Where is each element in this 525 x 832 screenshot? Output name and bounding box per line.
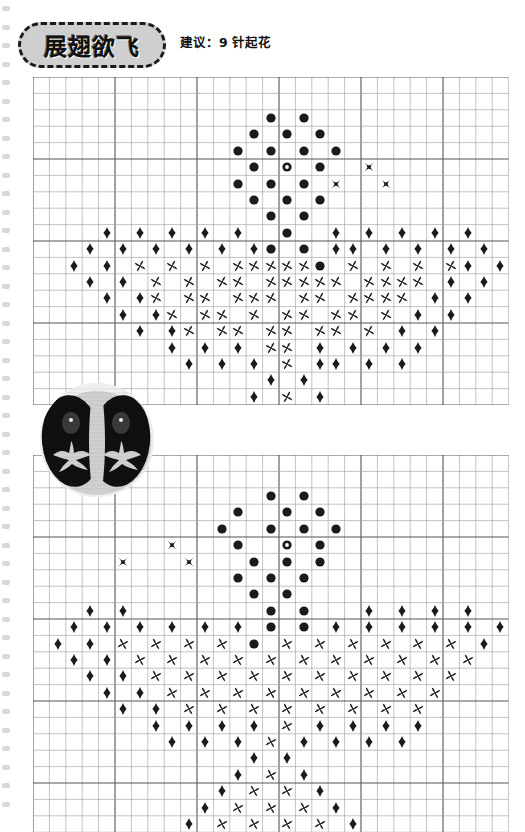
diamond-symbol	[443, 307, 459, 323]
diamond-symbol	[148, 717, 164, 733]
pinwheel-symbol	[131, 652, 147, 668]
filled-circle-symbol	[295, 143, 311, 159]
pinwheel-symbol	[148, 274, 164, 290]
diamond-symbol	[99, 257, 115, 273]
filled-circle-symbol	[279, 586, 295, 602]
filled-circle-symbol	[312, 553, 328, 569]
pinwheel-symbol	[279, 257, 295, 273]
pinwheel-symbol	[263, 274, 279, 290]
pinwheel-symbol	[164, 257, 180, 273]
page-title: 展翅欲飞	[44, 28, 140, 62]
diamond-symbol	[312, 783, 328, 799]
diamond-symbol	[345, 339, 361, 355]
pinwheel-symbol	[263, 685, 279, 701]
diamond-symbol	[459, 619, 475, 635]
diamond-symbol	[197, 619, 213, 635]
filled-circle-symbol	[295, 175, 311, 191]
diamond-symbol	[115, 701, 131, 717]
binding-hole	[2, 247, 10, 252]
diamond-symbol	[213, 356, 229, 372]
filled-circle-symbol	[279, 553, 295, 569]
pinwheel-symbol	[328, 652, 344, 668]
pinwheel-symbol	[410, 257, 426, 273]
diamond-symbol	[230, 225, 246, 241]
pinwheel-symbol	[263, 767, 279, 783]
diamond-symbol	[459, 290, 475, 306]
filled-circle-symbol	[279, 192, 295, 208]
pinwheel-symbol	[377, 257, 393, 273]
diamond-symbol	[131, 685, 147, 701]
binding-hole	[2, 654, 10, 659]
binding-hole	[2, 284, 10, 289]
upper-pattern-chart	[33, 77, 509, 405]
diamond-symbol	[246, 717, 262, 733]
filled-circle-symbol	[246, 586, 262, 602]
binding-hole	[2, 432, 10, 437]
diamond-symbol	[246, 389, 262, 405]
diamond-symbol	[328, 225, 344, 241]
diamond-symbol	[328, 799, 344, 815]
open-circle-symbol	[279, 537, 295, 553]
diamond-symbol	[213, 783, 229, 799]
pinwheel-symbol	[279, 356, 295, 372]
binding-hole	[2, 25, 10, 30]
pinwheel-symbol	[312, 701, 328, 717]
pinwheel-symbol	[263, 257, 279, 273]
diamond-symbol	[443, 274, 459, 290]
diamond-symbol	[459, 257, 475, 273]
pinwheel-symbol	[410, 668, 426, 684]
diamond-symbol	[82, 603, 98, 619]
diamond-symbol	[131, 290, 147, 306]
diamond-symbol	[164, 619, 180, 635]
diamond-symbol	[345, 241, 361, 257]
binding-hole	[2, 802, 10, 807]
pinwheel-symbol	[328, 323, 344, 339]
diamond-symbol	[164, 225, 180, 241]
pinwheel-symbol	[148, 290, 164, 306]
diamond-symbol	[361, 603, 377, 619]
pinwheel-symbol	[345, 635, 361, 651]
diamond-symbol	[181, 241, 197, 257]
pinwheel-symbol	[263, 323, 279, 339]
binding-hole	[2, 117, 10, 122]
diamond-symbol	[377, 339, 393, 355]
diamond-symbol	[99, 619, 115, 635]
diamond-symbol	[115, 603, 131, 619]
pinwheel-symbol	[246, 290, 262, 306]
diamond-symbol	[115, 241, 131, 257]
diamond-symbol	[394, 619, 410, 635]
pinwheel-symbol	[377, 290, 393, 306]
filled-circle-symbol	[263, 143, 279, 159]
filled-circle-symbol	[230, 143, 246, 159]
binding-hole	[2, 672, 10, 677]
filled-circle-symbol	[279, 126, 295, 142]
diamond-symbol	[427, 323, 443, 339]
page-title-bubble: 展翅欲飞	[18, 22, 166, 68]
diamond-symbol	[492, 619, 508, 635]
pinwheel-symbol	[279, 816, 295, 832]
pinwheel-symbol	[181, 274, 197, 290]
pinwheel-symbol	[213, 635, 229, 651]
pinwheel-symbol	[181, 668, 197, 684]
pinwheel-symbol	[427, 685, 443, 701]
filled-circle-symbol	[246, 159, 262, 175]
pinwheel-symbol	[181, 323, 197, 339]
diamond-symbol	[197, 799, 213, 815]
pinwheel-symbol	[295, 257, 311, 273]
diamond-symbol	[377, 241, 393, 257]
filled-circle-symbol	[263, 241, 279, 257]
pinwheel-symbol	[279, 717, 295, 733]
diamond-symbol	[230, 619, 246, 635]
pinwheel-symbol	[394, 685, 410, 701]
diamond-symbol	[279, 750, 295, 766]
diamond-symbol	[361, 356, 377, 372]
diamond-symbol	[213, 717, 229, 733]
binding-hole	[2, 321, 10, 326]
filled-circle-symbol	[328, 143, 344, 159]
pinwheel-symbol	[279, 668, 295, 684]
filled-circle-symbol	[263, 521, 279, 537]
pinwheel-symbol	[148, 668, 164, 684]
pinwheel-symbol	[197, 685, 213, 701]
diamond-symbol	[295, 372, 311, 388]
filled-circle-symbol	[246, 126, 262, 142]
